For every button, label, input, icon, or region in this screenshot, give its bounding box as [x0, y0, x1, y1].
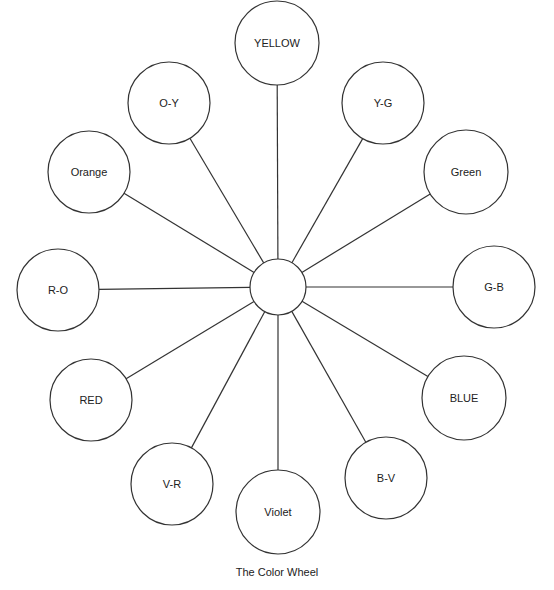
spoke: [99, 287, 250, 289]
node-label: Y-G: [374, 97, 393, 109]
diagram-caption: The Color Wheel: [0, 566, 554, 578]
spoke: [302, 194, 430, 273]
node-label: O-Y: [159, 97, 179, 109]
node-label: Violet: [264, 506, 291, 518]
color-node-g-b: G-B: [453, 246, 535, 328]
color-node-o-y: O-Y: [128, 62, 210, 144]
color-wheel-diagram: YELLOWY-GGreenG-BBLUEB-VVioletV-RREDR-OO…: [0, 0, 554, 590]
spoke: [124, 193, 254, 272]
node-label: V-R: [163, 478, 181, 490]
node-label: G-B: [484, 281, 504, 293]
spoke: [292, 311, 366, 442]
color-node-green: Green: [424, 130, 508, 214]
color-node-b-v: B-V: [345, 437, 427, 519]
spoke: [190, 138, 264, 263]
node-label: Green: [451, 166, 482, 178]
color-node-orange: Orange: [48, 131, 130, 213]
node-label: RED: [79, 394, 102, 406]
color-node-y-g: Y-G: [342, 62, 424, 144]
node-label: Orange: [71, 166, 108, 178]
node-label: B-V: [377, 472, 396, 484]
spoke: [292, 139, 363, 263]
spoke: [302, 301, 428, 376]
node-label: R-O: [48, 284, 69, 296]
center-hub: [250, 259, 306, 315]
spoke: [277, 85, 278, 259]
node-label: BLUE: [450, 392, 479, 404]
color-node-blue: BLUE: [422, 356, 506, 440]
color-node-r-o: R-O: [17, 249, 99, 331]
node-label: YELLOW: [254, 37, 300, 49]
color-node-yellow: YELLOW: [235, 1, 319, 85]
color-node-red: RED: [50, 359, 132, 441]
color-node-violet: Violet: [236, 470, 320, 554]
color-node-v-r: V-R: [131, 443, 213, 525]
